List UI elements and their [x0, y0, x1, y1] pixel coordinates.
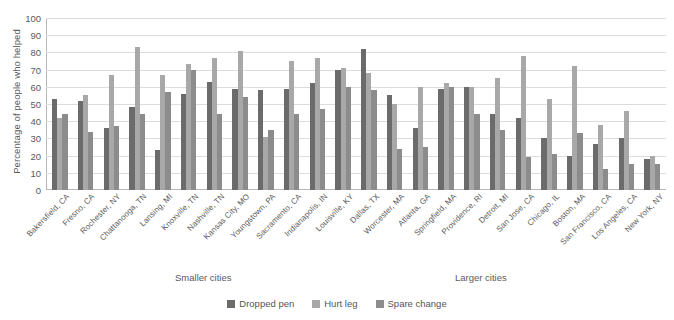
legend-item: Spare change	[376, 298, 447, 309]
y-axis-tick-label: 40	[30, 116, 41, 127]
bar	[655, 164, 660, 190]
bar	[346, 87, 351, 190]
bar	[268, 130, 273, 190]
bar-group	[176, 18, 202, 190]
bar-group	[562, 18, 588, 190]
bar	[449, 87, 454, 190]
y-axis-tick-label: 10	[30, 167, 41, 178]
bar	[243, 97, 248, 190]
bar-group	[330, 18, 356, 190]
bar	[217, 114, 222, 190]
bar-group	[459, 18, 485, 190]
legend-label: Dropped pen	[239, 298, 294, 309]
bar	[526, 157, 531, 190]
bar-group	[485, 18, 511, 190]
y-axis-tick-label: 60	[30, 81, 41, 92]
legend-item: Hurt leg	[312, 298, 357, 309]
bar-group	[150, 18, 176, 190]
y-axis-tick-label: 50	[30, 99, 41, 110]
bar-chart: Percentage of people who helped 10090807…	[0, 0, 674, 320]
bar	[114, 126, 119, 190]
bar	[371, 90, 376, 190]
bar-group	[433, 18, 459, 190]
bar-group	[511, 18, 537, 190]
bar-group	[536, 18, 562, 190]
bar-group	[588, 18, 614, 190]
bar	[320, 109, 325, 190]
bar-group	[305, 18, 331, 190]
bar-group	[614, 18, 640, 190]
legend-swatch-icon	[376, 300, 384, 308]
x-axis-tick-label: Los Angeles, CA	[590, 192, 639, 241]
legend-swatch-icon	[312, 300, 320, 308]
bar	[140, 114, 145, 190]
legend-label: Spare change	[388, 298, 447, 309]
y-axis-tick-label: 90	[30, 30, 41, 41]
y-axis-tick-label: 80	[30, 47, 41, 58]
bar	[165, 92, 170, 190]
bar-group	[47, 18, 73, 190]
y-axis-tick-label: 0	[36, 185, 41, 196]
bar-group	[382, 18, 408, 190]
section-label-smaller-cities: Smaller cities	[175, 272, 232, 283]
plot-area: 1009080706050403020100	[46, 18, 666, 190]
bar-group	[227, 18, 253, 190]
x-axis-labels: Bakersfield, CAFresno, CARochester, NYCh…	[46, 192, 666, 264]
bar-group	[279, 18, 305, 190]
bar	[629, 164, 634, 190]
bar	[552, 154, 557, 190]
y-axis-tick-label: 70	[30, 64, 41, 75]
bar-group	[73, 18, 99, 190]
x-axis-tick-label: Bakersfield, CA	[25, 192, 71, 238]
legend-swatch-icon	[227, 300, 235, 308]
bar	[474, 114, 479, 190]
bar	[423, 147, 428, 190]
legend-item: Dropped pen	[227, 298, 294, 309]
bar	[603, 169, 608, 190]
bar	[62, 114, 67, 190]
bar	[500, 130, 505, 190]
bar-group	[202, 18, 228, 190]
y-axis-tick-label: 30	[30, 133, 41, 144]
bar	[88, 132, 93, 190]
bar-group	[639, 18, 665, 190]
legend-label: Hurt leg	[324, 298, 357, 309]
chart-legend: Dropped penHurt legSpare change	[0, 298, 674, 309]
section-label-larger-cities: Larger cities	[455, 272, 507, 283]
y-axis-tick-label: 100	[25, 13, 41, 24]
y-axis-title: Percentage of people who helped	[11, 12, 22, 192]
bar	[294, 114, 299, 190]
bar	[397, 149, 402, 190]
bar	[191, 70, 196, 190]
bar-group	[253, 18, 279, 190]
bar	[577, 133, 582, 190]
bar-groups	[46, 18, 666, 190]
bar-group	[356, 18, 382, 190]
bar-group	[408, 18, 434, 190]
bar-group	[124, 18, 150, 190]
bar-group	[99, 18, 125, 190]
y-axis-tick-label: 20	[30, 150, 41, 161]
